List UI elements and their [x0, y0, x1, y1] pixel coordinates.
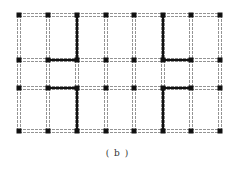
grid-node [218, 129, 223, 134]
grid-node [46, 58, 51, 63]
grid-node [132, 86, 137, 91]
grid-node [46, 129, 51, 134]
grid-node [17, 86, 22, 91]
grid-node [75, 58, 80, 63]
grid-node [17, 58, 22, 63]
grid-node [17, 13, 22, 18]
grid-node [17, 129, 22, 134]
grid-nodes [17, 13, 223, 134]
figure-caption: ( b ) [0, 148, 235, 158]
grid-node [75, 129, 80, 134]
grid-node [189, 86, 194, 91]
grid-node [218, 13, 223, 18]
grid-node [161, 58, 166, 63]
dashed-members [18, 14, 222, 133]
grid-node [104, 58, 109, 63]
grid-node [75, 13, 80, 18]
structural-grid-diagram [0, 0, 235, 172]
grid-node [132, 58, 137, 63]
grid-node [161, 86, 166, 91]
grid-node [104, 13, 109, 18]
grid-node [132, 129, 137, 134]
grid-node [218, 58, 223, 63]
grid-node [104, 129, 109, 134]
grid-node [189, 13, 194, 18]
grid-node [218, 86, 223, 91]
grid-node [46, 13, 51, 18]
grid-node [46, 86, 51, 91]
grid-node [132, 13, 137, 18]
grid-node [75, 86, 80, 91]
bold-members [48, 15, 191, 131]
grid-node [161, 129, 166, 134]
grid-node [104, 86, 109, 91]
grid-node [161, 13, 166, 18]
grid-node [189, 129, 194, 134]
grid-node [189, 58, 194, 63]
